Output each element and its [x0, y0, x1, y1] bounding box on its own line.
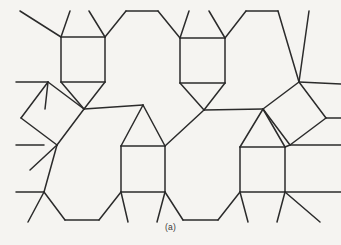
- figure-container: (a): [0, 0, 341, 245]
- figure-background: [0, 0, 341, 245]
- tiling-diagram: [0, 0, 341, 245]
- figure-caption: (a): [0, 221, 341, 233]
- tiling-edge-hex-cr-a: [204, 109, 263, 110]
